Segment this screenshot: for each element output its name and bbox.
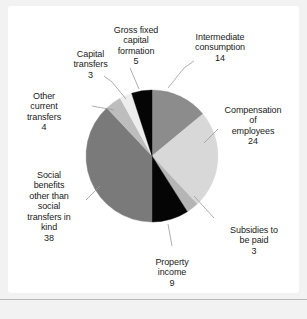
- pie-slice-group: [86, 90, 218, 222]
- label-capital-transfers-name: Capital transfers: [73, 49, 107, 70]
- label-property-income: Property income 9: [140, 246, 204, 299]
- label-intermediate-consumption-name: Intermediate consumption: [195, 32, 245, 53]
- label-compensation-of-employees-name: Compensation of employees: [225, 105, 282, 136]
- label-other-current-transfers-value: 4: [16, 122, 72, 133]
- label-social-benefits: Social benefits other than social transf…: [16, 159, 82, 254]
- figure-card: Gross fixed capital formation 5 Intermed…: [8, 6, 299, 293]
- label-subsidies-to-be-paid-name: Subsidies to be paid: [230, 225, 278, 246]
- label-property-income-value: 9: [140, 278, 204, 289]
- label-intermediate-consumption-value: 14: [184, 53, 256, 64]
- label-social-benefits-name: Social benefits other than social transf…: [27, 170, 70, 233]
- label-compensation-of-employees: Compensation of employees 24: [213, 94, 293, 157]
- label-subsidies-to-be-paid-value: 3: [218, 246, 290, 257]
- label-other-current-transfers: Other current transfers 4: [16, 80, 72, 143]
- leader-line-subsidies-to-be-paid: [194, 196, 214, 218]
- label-compensation-of-employees-value: 24: [213, 136, 293, 147]
- leader-line-property-income: [168, 224, 172, 246]
- label-capital-transfers-value: 3: [63, 70, 118, 81]
- source-bar: Source: Eurostat: [0, 300, 307, 319]
- label-intermediate-consumption: Intermediate consumption 14: [184, 21, 256, 74]
- label-other-current-transfers-name: Other current transfers: [27, 91, 61, 122]
- label-property-income-name: Property income: [155, 257, 188, 278]
- label-subsidies-to-be-paid: Subsidies to be paid 3: [218, 214, 290, 267]
- label-social-benefits-value: 38: [16, 233, 82, 244]
- label-gross-fixed-capital-formation-name: Gross fixed capital formation: [114, 25, 158, 56]
